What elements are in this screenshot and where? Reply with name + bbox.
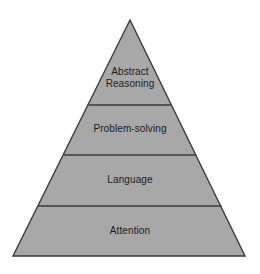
pyramid-diagram: Abstract Reasoning Problem-solving Langu… xyxy=(0,0,260,274)
pyramid-graphic xyxy=(0,0,260,274)
pyramid-body xyxy=(13,20,245,256)
